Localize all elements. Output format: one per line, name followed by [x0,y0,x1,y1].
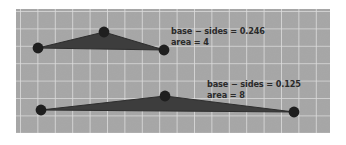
annotation-lower-base-sides: base − sides = 0.125 [207,79,301,90]
annotation-upper-area: area = 4 [171,37,265,48]
annotation-upper: base − sides = 0.246 area = 4 [171,26,265,47]
annotation-lower-area: area = 8 [207,90,301,101]
annotation-lower: base − sides = 0.125 area = 8 [207,79,301,100]
annotation-upper-base-sides: base − sides = 0.246 [171,26,265,37]
triangle-lower-vertex-right [289,107,300,118]
figure-root: base − sides = 0.246 area = 4 base − sid… [0,0,346,145]
triangle-upper-vertex-left [33,43,44,54]
triangles-overlay [0,0,346,145]
triangle-upper-vertex-apex [99,27,110,38]
triangle-upper [33,27,170,56]
triangle-lower-vertex-left [36,105,47,116]
triangle-lower-vertex-apex [160,91,171,102]
triangle-upper-vertex-right [159,45,170,56]
